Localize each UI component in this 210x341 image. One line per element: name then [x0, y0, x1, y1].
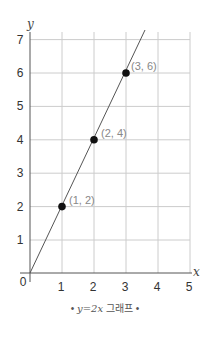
chart-caption: • y=2x 그래프 •	[0, 300, 210, 315]
x-tick-2: 2	[90, 280, 97, 294]
x-tick-4: 4	[154, 280, 161, 294]
y-tick-6: 6	[17, 66, 24, 80]
y-tick-2: 2	[17, 200, 24, 214]
y-tick-4: 4	[17, 133, 24, 147]
y-tick-5: 5	[17, 99, 24, 113]
caption-bullet-left: •	[71, 303, 75, 314]
x-tick-labels: 0 1 2 3 4 5	[20, 275, 193, 294]
caption-bullet-right: •	[136, 303, 140, 314]
x-axis-label: x	[193, 265, 200, 279]
origin-label: 0	[20, 275, 27, 289]
x-tick-3: 3	[122, 280, 129, 294]
y-tick-1: 1	[17, 233, 24, 247]
caption-equation: y=2x	[77, 303, 103, 314]
grid	[30, 32, 190, 273]
chart-svg: y x 1 2 3 4 5 6 7 0 1 2 3 4 5 (1, 2) (2,…	[0, 0, 210, 341]
line-y-2x	[30, 30, 145, 273]
point-3-6	[122, 69, 130, 77]
point-2-4	[90, 136, 98, 144]
y-tick-3: 3	[17, 166, 24, 180]
data-points: (1, 2) (2, 4) (3, 6)	[58, 60, 156, 210]
y-tick-7: 7	[17, 33, 24, 47]
x-tick-1: 1	[58, 280, 65, 294]
point-label-3-6: (3, 6)	[131, 60, 157, 72]
axes	[20, 32, 192, 282]
point-label-2-4: (2, 4)	[101, 127, 127, 139]
point-label-1-2: (1, 2)	[69, 194, 95, 206]
point-1-2	[58, 203, 66, 211]
x-tick-5: 5	[186, 280, 193, 294]
caption-suffix: 그래프	[103, 303, 133, 314]
y-tick-labels: 1 2 3 4 5 6 7	[17, 33, 24, 247]
y-axis-label: y	[26, 17, 34, 31]
